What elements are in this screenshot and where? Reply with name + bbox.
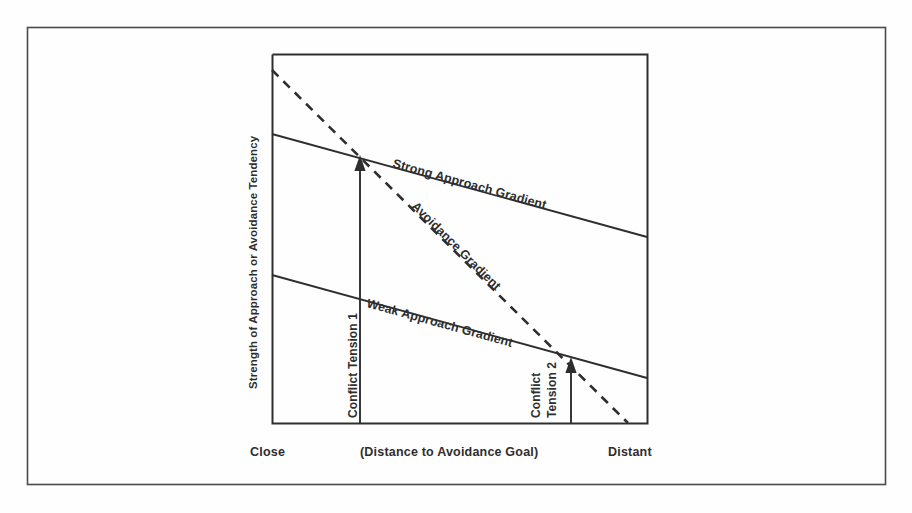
avoidance-gradient-label: Avoidance Gradient: [409, 199, 504, 293]
x-axis-center-label: (Distance to Avoidance Goal): [360, 445, 538, 459]
x-axis-left-label: Close: [250, 445, 285, 459]
conflict-tension-2-label-line2: Tension 2: [545, 362, 559, 418]
conflict-tension-2-arrow: [565, 357, 576, 423]
x-axis-right-label: Distant: [608, 445, 652, 459]
conflict-tension-2-label-line1: Conflict: [529, 373, 543, 418]
conflict-tension-1-label: Conflict Tension 1: [346, 313, 360, 418]
gradient-diagram-svg: Strong Approach Gradient Avoidance Gradi…: [0, 0, 912, 513]
y-axis-label: Strength of Approach or Avoidance Tenden…: [247, 135, 259, 389]
weak-approach-gradient-label: Weak Approach Gradient: [365, 296, 515, 350]
figure-container: Strong Approach Gradient Avoidance Gradi…: [0, 0, 912, 513]
